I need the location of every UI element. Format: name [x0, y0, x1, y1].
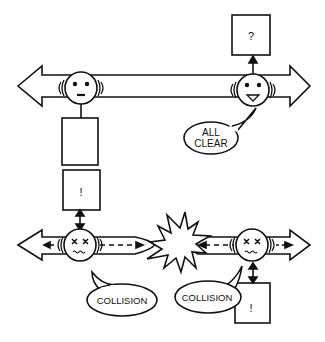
top-scenario: ? ALL CLEAR	[18, 15, 310, 165]
arrow-up-icon	[249, 56, 257, 63]
speech-text: COLLISION	[182, 292, 233, 303]
dazed-face-icon	[236, 229, 268, 261]
diagram-canvas: ? ALL CLEAR !	[0, 0, 325, 342]
explosion-icon	[147, 212, 210, 272]
eye-icon	[73, 82, 77, 86]
carried-box	[62, 118, 98, 165]
alert-box-label: !	[249, 302, 252, 314]
eye-icon	[85, 82, 89, 86]
speech-text-line2: CLEAR	[194, 138, 227, 149]
neutral-face-icon	[65, 72, 97, 104]
bottom-scenario: ! COLLISION !	[18, 170, 310, 323]
eye-icon	[257, 83, 261, 87]
speech-text-line1: ALL	[202, 127, 220, 138]
speech-bubble	[232, 108, 256, 130]
speech-text: COLLISION	[97, 295, 148, 306]
top-left-agent	[59, 72, 103, 165]
question-box-label: ?	[248, 30, 254, 42]
alert-box-label: !	[79, 186, 82, 198]
dazed-face-icon	[64, 229, 96, 261]
eye-icon	[245, 83, 249, 87]
